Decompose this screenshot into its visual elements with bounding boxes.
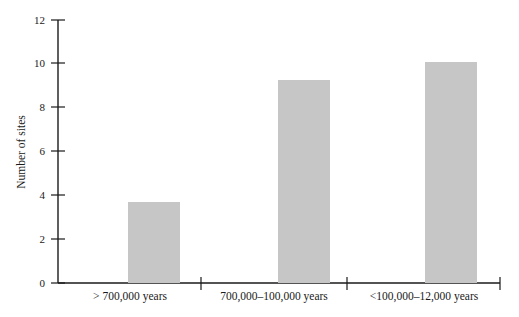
bar-chart: 0 2 4 6 8 10 12 Number of sites > 700,00… <box>0 0 519 317</box>
y-axis-title: Number of sites <box>15 115 27 189</box>
bars-group <box>128 62 477 283</box>
y-tick-label-10: 10 <box>34 57 46 69</box>
x-category-label-2: 700,000–100,000 years <box>220 290 328 303</box>
x-category-label-3: <100,000–12,000 years <box>370 290 479 303</box>
chart-page: 0 2 4 6 8 10 12 Number of sites > 700,00… <box>0 0 519 317</box>
y-tick-label-12: 12 <box>34 14 45 26</box>
y-tick-label-6: 6 <box>40 145 46 157</box>
x-category-label-1: > 700,000 years <box>93 290 167 303</box>
y-tick-label-0: 0 <box>40 277 46 289</box>
y-tick-label-8: 8 <box>40 101 46 113</box>
bar-category-3 <box>425 62 477 283</box>
bar-category-2 <box>278 80 330 283</box>
y-tick-label-4: 4 <box>40 189 46 201</box>
bar-category-1 <box>128 202 180 283</box>
y-tick-label-2: 2 <box>40 233 46 245</box>
